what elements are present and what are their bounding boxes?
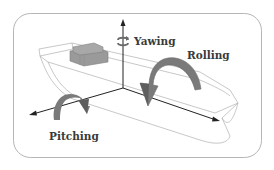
rolling-label: Rolling <box>187 49 230 61</box>
yawing-label: Yawing <box>133 35 176 47</box>
ship-motion-diagram: Yawing Rolling Pitching <box>0 0 274 170</box>
pitching-label: Pitching <box>49 130 99 142</box>
cabin-block <box>70 43 108 66</box>
diagram-canvas: Yawing Rolling Pitching <box>0 0 274 170</box>
